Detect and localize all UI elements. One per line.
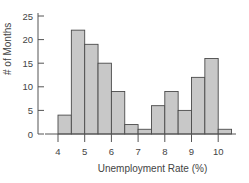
histogram-bar [151, 106, 164, 134]
y-tick-label: 5 [28, 105, 33, 116]
x-axis-ticks: 45678910 [55, 134, 223, 157]
y-tick-label: 25 [22, 11, 33, 22]
histogram-chart: 0510152025 45678910 [0, 0, 249, 183]
histogram-bar [138, 129, 151, 134]
x-tick-label: 5 [82, 146, 87, 157]
x-tick-label: 6 [109, 146, 114, 157]
histogram-bar [98, 63, 111, 134]
histogram-bar [111, 92, 124, 134]
histogram-bar [58, 115, 71, 134]
histogram-bar [71, 30, 84, 134]
y-tick-label: 20 [22, 34, 33, 45]
y-tick-label: 10 [22, 81, 33, 92]
x-tick-label: 4 [55, 146, 60, 157]
histogram-bar [205, 58, 218, 134]
y-axis-ticks: 0510152025 [22, 11, 44, 140]
histogram-bar [192, 77, 205, 134]
x-tick-label: 10 [213, 146, 224, 157]
x-tick-label: 8 [162, 146, 167, 157]
x-axis-label: Unemployment Rate (%) [0, 163, 249, 174]
y-axis-label: # of Months [2, 23, 13, 75]
histogram-bar [178, 110, 191, 134]
histogram-bar [125, 125, 138, 134]
bars-group [58, 30, 232, 134]
x-tick-label: 7 [135, 146, 140, 157]
histogram-bar [85, 44, 98, 134]
x-tick-label: 9 [189, 146, 194, 157]
y-tick-label: 15 [22, 58, 33, 69]
histogram-bar [218, 129, 231, 134]
y-tick-label: 0 [28, 129, 33, 140]
histogram-bar [165, 92, 178, 134]
